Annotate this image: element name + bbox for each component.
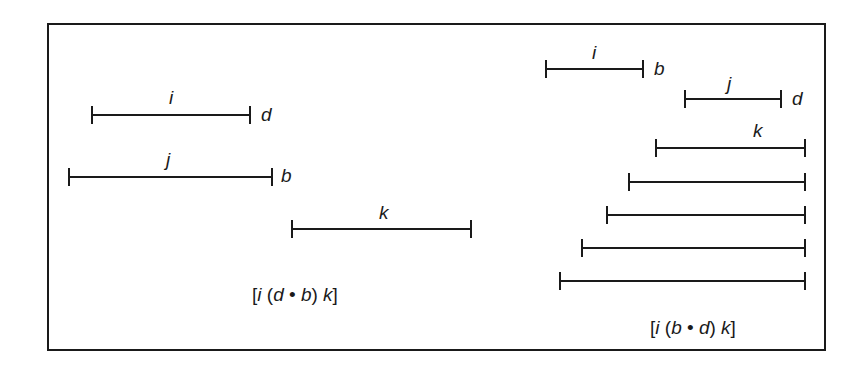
- right-segment-i-label: i: [592, 43, 596, 62]
- figure-frame: [47, 23, 826, 351]
- segment-end-tick: [804, 239, 806, 257]
- segment-start-tick: [581, 239, 583, 257]
- left-formula: [i (d • b) k]: [252, 285, 338, 304]
- left-segment-j-endpoint: b: [281, 166, 292, 185]
- right-bar-1: [628, 181, 806, 183]
- segment-end-tick: [271, 168, 273, 186]
- left-segment-k-label: k: [379, 203, 389, 222]
- segment-end-tick: [804, 272, 806, 290]
- left-segment-j: [68, 176, 273, 178]
- segment-start-tick: [91, 106, 93, 124]
- segment-start-tick: [655, 139, 657, 157]
- left-segment-i-label: i: [169, 88, 173, 107]
- segment-end-tick: [470, 220, 472, 238]
- segment-end-tick: [804, 206, 806, 224]
- right-segment-k-label: k: [753, 121, 763, 140]
- segment-start-tick: [628, 173, 630, 191]
- left-segment-i-endpoint: d: [261, 105, 272, 124]
- segment-end-tick: [780, 90, 782, 108]
- segment-end-tick: [804, 139, 806, 157]
- segment-end-tick: [804, 173, 806, 191]
- right-segment-j-label: j: [727, 74, 731, 93]
- right-bar-4: [559, 280, 806, 282]
- right-bar-3: [581, 247, 806, 249]
- left-segment-i: [91, 114, 251, 116]
- right-segment-i-endpoint: b: [654, 59, 665, 78]
- segment-start-tick: [291, 220, 293, 238]
- right-segment-j-endpoint: d: [792, 89, 803, 108]
- segment-start-tick: [684, 90, 686, 108]
- left-segment-k: [291, 228, 472, 230]
- right-formula: [i (b • d) k]: [650, 318, 736, 337]
- segment-start-tick: [68, 168, 70, 186]
- segment-end-tick: [249, 106, 251, 124]
- right-bar-2: [606, 214, 806, 216]
- right-segment-k: [655, 147, 806, 149]
- segment-start-tick: [606, 206, 608, 224]
- segment-start-tick: [545, 60, 547, 78]
- left-segment-j-label: j: [166, 150, 170, 169]
- right-segment-i: [545, 68, 644, 70]
- segment-end-tick: [642, 60, 644, 78]
- right-segment-j: [684, 98, 782, 100]
- segment-start-tick: [559, 272, 561, 290]
